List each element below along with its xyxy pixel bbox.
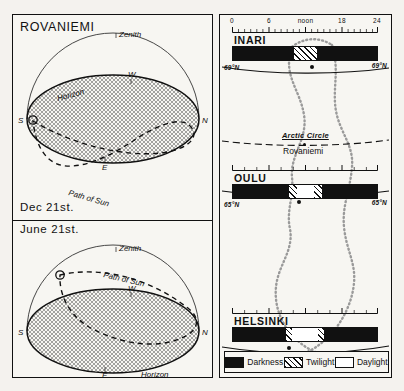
caption-jun-21: June 21st.	[20, 223, 79, 235]
city-dot-inari	[310, 65, 314, 69]
hour-ticks-inari	[232, 26, 378, 33]
city-dot-helsinki	[287, 346, 291, 350]
rovaniemi-label: Rovaniemi	[283, 146, 323, 156]
lat-label-69n-left: 69°N	[224, 64, 239, 71]
daybar-oulu	[232, 184, 378, 199]
caption-dec-21: Dec 21st.	[20, 201, 74, 213]
celestial-sphere-jun-svg: Zenith Path of Sun S N W E Horizon	[13, 235, 212, 379]
celestial-sphere-dec-svg: Zenith Horizon S N W E Path of Sun	[13, 15, 212, 220]
darkness-swatch-icon	[225, 357, 244, 368]
segment-daylight	[292, 328, 318, 341]
scale-label-6: 6	[267, 17, 271, 24]
scale-label-18: 18	[338, 17, 346, 24]
segment-darkness	[233, 185, 289, 198]
twilight-swatch-icon	[284, 357, 303, 368]
daybar-inari	[232, 46, 378, 61]
hour-scale-labels: 0 6 noon 18 24	[232, 17, 378, 26]
city-label-oulu: OULU	[234, 172, 267, 184]
left-panel: ROVANIEMI	[12, 14, 213, 378]
label-path-jun: Path of Sun	[103, 270, 146, 288]
lat-label-69n-right: 69°N	[372, 62, 387, 69]
segment-daylight	[297, 185, 314, 198]
label-zenith-jun: Zenith	[118, 244, 142, 253]
label-south-dec: S	[18, 116, 24, 125]
legend-item-twilight: Twilight	[284, 357, 334, 368]
scale-label-24: 24	[373, 17, 381, 24]
arctic-circle-label: Arctic Circle	[282, 131, 329, 140]
segment-darkness	[233, 47, 294, 60]
legend-label-darkness: Darkness	[247, 357, 283, 367]
scale-label-0: 0	[230, 17, 234, 24]
label-north-jun: N	[202, 328, 208, 337]
legend-item-darkness: Darkness	[225, 357, 283, 368]
daylight-swatch-icon	[335, 357, 354, 368]
scale-label-noon: noon	[298, 17, 314, 24]
segment-twilight	[289, 185, 297, 198]
segment-darkness	[233, 328, 286, 341]
city-dot-rovaniemi	[303, 143, 306, 146]
diagram-jun-21: June 21st.	[13, 221, 212, 379]
city-label-helsinki: HELSINKI	[234, 315, 289, 327]
segment-darkness	[324, 328, 377, 341]
city-dot-oulu	[297, 200, 301, 204]
label-east-dec: E	[102, 163, 108, 172]
legend-item-daylight: Daylight	[335, 357, 388, 368]
label-south-jun: S	[18, 328, 24, 337]
legend: Darkness Twilight Daylight	[224, 351, 389, 373]
hour-ticks-helsinki	[232, 307, 378, 314]
legend-label-daylight: Daylight	[357, 357, 388, 367]
city-label-inari: INARI	[234, 34, 266, 46]
label-east-jun: E	[102, 371, 108, 379]
label-zenith-dec: Zenith	[118, 30, 142, 39]
daybar-helsinki	[232, 327, 378, 342]
legend-label-twilight: Twilight	[306, 357, 334, 367]
lat-label-65n-right: 65°N	[372, 199, 387, 206]
segment-twilight	[314, 185, 322, 198]
lat-label-65n-left: 65°N	[224, 201, 239, 208]
label-horizon-jun: Horizon	[141, 370, 169, 379]
segment-twilight	[294, 47, 317, 60]
segment-darkness	[322, 185, 377, 198]
diagram-dec-21: ROVANIEMI	[13, 15, 212, 221]
label-north-dec: N	[202, 116, 208, 125]
right-panel: 0 6 noon 18 24 INARI 69°N 69°N Arctic Ci…	[219, 14, 392, 378]
figure-root: ROVANIEMI	[0, 0, 404, 391]
hour-ticks-oulu	[232, 164, 378, 171]
segment-darkness	[317, 47, 377, 60]
